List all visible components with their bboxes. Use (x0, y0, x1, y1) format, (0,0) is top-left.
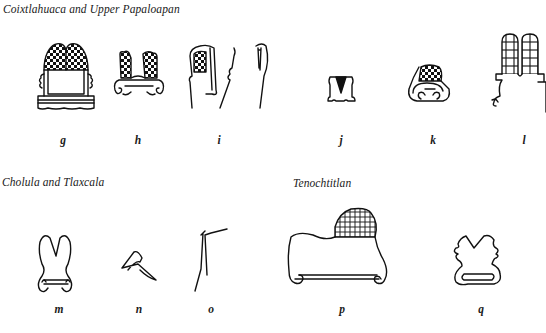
glyph-o-line-icon (193, 229, 229, 293)
glyph-g-hill-icon (32, 38, 104, 110)
glyph-label-j: j (339, 134, 342, 146)
section-heading-cholula: Cholula and Tlaxcala (2, 176, 104, 188)
section-heading-coixtlahuaca: Coixtlahuaca and Upper Papaloapan (3, 3, 180, 15)
glyph-l-hill-icon (490, 34, 546, 112)
glyph-q-hill-icon (452, 234, 504, 286)
glyph-label-o: o (208, 303, 214, 315)
glyph-label-i: i (217, 134, 220, 146)
glyph-label-n: n (136, 303, 142, 315)
glyph-p-hill-icon (285, 207, 387, 287)
glyph-k-hill-icon (407, 63, 452, 108)
glyph-h-hill-icon (115, 50, 165, 100)
glyph-m-hill-icon (36, 232, 76, 294)
glyph-label-m: m (55, 303, 64, 315)
glyph-label-p: p (339, 303, 345, 315)
glyph-j-hill-icon (326, 73, 358, 105)
glyph-i-hill-icon (186, 42, 278, 112)
glyph-label-k: k (430, 134, 436, 146)
glyph-n-hill-icon (120, 250, 162, 282)
section-heading-tenochtitlan: Tenochtitlan (293, 177, 351, 189)
glyph-label-q: q (478, 303, 484, 315)
glyph-label-l: l (522, 134, 525, 146)
glyph-label-g: g (60, 134, 66, 146)
glyph-label-h: h (135, 134, 141, 146)
